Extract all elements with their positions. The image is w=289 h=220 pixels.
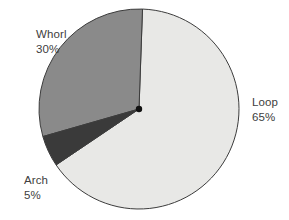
pie-label-arch-value: 5% [24, 189, 41, 201]
pie-label-whorl-name: Whorl [36, 28, 67, 40]
pie-label-arch-name: Arch [24, 174, 48, 186]
pie-label-whorl-value: 30% [36, 43, 59, 55]
pie-chart-canvas: Loop 65% Whorl 30% Arch 5% [0, 0, 289, 220]
pie-chart: Loop 65% Whorl 30% Arch 5% [0, 0, 289, 220]
pie-label-loop: Loop 65% [252, 96, 281, 123]
pie-label-loop-name: Loop [252, 96, 278, 108]
pie-label-arch: Arch 5% [24, 174, 51, 201]
pie-label-loop-value: 65% [252, 111, 275, 123]
pie-center-dot [136, 106, 142, 112]
